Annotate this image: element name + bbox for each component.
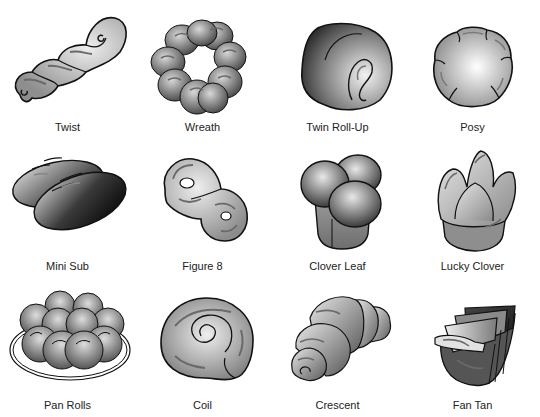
twin-roll-up-illustration	[270, 0, 405, 120]
roll-figure-8: Figure 8	[135, 139, 270, 278]
roll-wreath: Wreath	[135, 0, 270, 139]
figure-8-illustration	[135, 139, 270, 259]
roll-crescent: Crescent	[270, 278, 405, 417]
roll-posy: Posy	[405, 0, 540, 139]
pan-rolls-illustration	[0, 278, 135, 398]
roll-shapes-grid: Twist Wreath	[0, 0, 540, 417]
roll-label: Twist	[0, 121, 135, 133]
roll-label: Mini Sub	[0, 260, 135, 272]
roll-mini-sub: Mini Sub	[0, 139, 135, 278]
posy-illustration	[405, 0, 540, 120]
roll-lucky-clover: Lucky Clover	[405, 139, 540, 278]
crescent-illustration	[270, 278, 405, 398]
roll-clover-leaf: Clover Leaf	[270, 139, 405, 278]
clover-leaf-illustration	[270, 139, 405, 259]
roll-label: Pan Rolls	[0, 399, 135, 411]
roll-label: Clover Leaf	[270, 260, 405, 272]
roll-label: Wreath	[135, 121, 270, 133]
coil-illustration	[135, 278, 270, 398]
lucky-clover-illustration	[405, 139, 540, 259]
twist-illustration	[0, 0, 135, 120]
roll-twin-roll-up: Twin Roll-Up	[270, 0, 405, 139]
roll-label: Coil	[135, 399, 270, 411]
roll-pan-rolls: Pan Rolls	[0, 278, 135, 417]
roll-label: Figure 8	[135, 260, 270, 272]
wreath-illustration	[135, 0, 270, 120]
roll-label: Lucky Clover	[405, 260, 540, 272]
roll-fan-tan: Fan Tan	[405, 278, 540, 417]
fan-tan-illustration	[405, 278, 540, 398]
roll-twist: Twist	[0, 0, 135, 139]
roll-coil: Coil	[135, 278, 270, 417]
mini-sub-illustration	[0, 139, 135, 259]
roll-label: Posy	[405, 121, 540, 133]
roll-label: Twin Roll-Up	[270, 121, 405, 133]
roll-label: Crescent	[270, 399, 405, 411]
roll-label: Fan Tan	[405, 399, 540, 411]
